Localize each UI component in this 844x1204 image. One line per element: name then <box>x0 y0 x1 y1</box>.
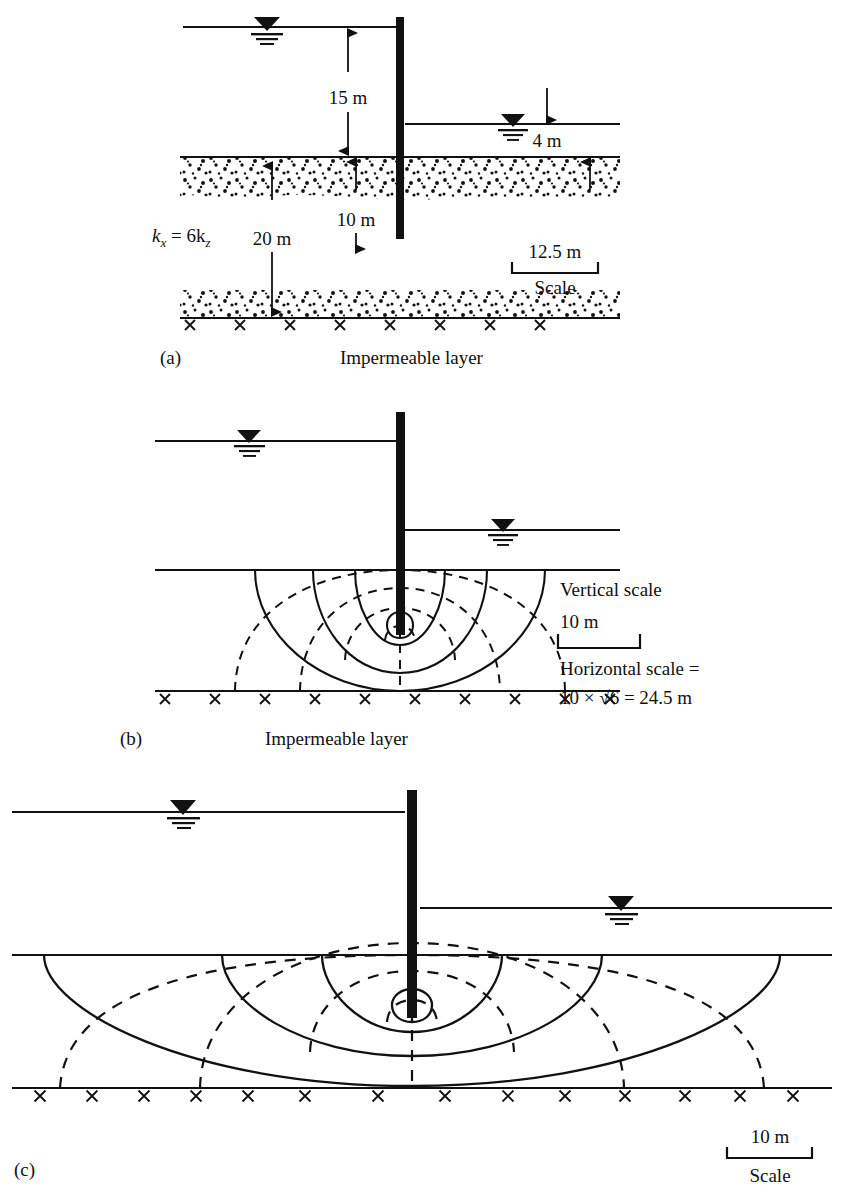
scale-bar-c: 10 m Scale <box>727 1126 812 1186</box>
diagram-svg: 15 m 4 m 10 m 20 m kx = 6kz 12.5 m <box>0 0 844 1204</box>
caption-b: Impermeable layer <box>265 728 409 749</box>
sheet-pile-a <box>396 17 404 239</box>
dimension-15m-label: 15 m <box>329 87 368 108</box>
caption-a: Impermeable layer <box>340 347 484 368</box>
horizontal-scale-value: 10 × √6 = 24.5 m <box>560 687 692 708</box>
water-table-icon-c-downstream <box>605 896 638 925</box>
panel-b: Vertical scale 10 m Horizontal scale = 1… <box>120 412 699 750</box>
panel-label-c: (c) <box>14 1159 35 1181</box>
water-table-icon-a-downstream <box>498 114 528 141</box>
dimension-15m-a: 15 m <box>329 33 368 151</box>
dimension-4m-label: 4 m <box>532 130 561 151</box>
water-table-icon-c-upstream <box>167 800 200 829</box>
water-table-icon-a-upstream <box>251 17 283 45</box>
impermeable-hatch-c <box>35 1091 799 1102</box>
scale-c-value: 10 m <box>751 1126 790 1147</box>
water-table-icon-b-upstream <box>234 430 265 457</box>
scale-c-caption: Scale <box>749 1165 790 1186</box>
panel-label-b: (b) <box>120 728 142 750</box>
scale-a-value: 12.5 m <box>529 241 582 262</box>
anisotropy-note-a: kx = 6kz <box>152 225 211 250</box>
vertical-scale-value: 10 m <box>560 611 599 632</box>
impermeable-hatch-a <box>185 320 545 330</box>
horizontal-scale-label: Horizontal scale = <box>560 658 699 679</box>
sheet-pile-c <box>407 790 417 1018</box>
dimension-10m-label: 10 m <box>337 209 376 230</box>
panel-a: 15 m 4 m 10 m 20 m kx = 6kz 12.5 m <box>152 17 620 369</box>
scale-bar-a: 12.5 m Scale <box>512 241 598 298</box>
vertical-scale-b: Vertical scale 10 m <box>558 579 662 648</box>
water-table-icon-b-downstream <box>488 519 518 546</box>
sheet-pile-b <box>396 412 405 635</box>
panel-c: 10 m Scale (c) <box>12 790 832 1186</box>
panel-label-a: (a) <box>160 347 181 369</box>
impermeable-hatch-b <box>160 694 615 704</box>
horizontal-scale-b: Horizontal scale = 10 × √6 = 24.5 m <box>560 658 699 708</box>
scale-a-caption: Scale <box>534 277 575 298</box>
figure-root: 15 m 4 m 10 m 20 m kx = 6kz 12.5 m <box>0 0 844 1204</box>
vertical-scale-label: Vertical scale <box>560 579 662 600</box>
dimension-20m-label: 20 m <box>253 228 292 249</box>
